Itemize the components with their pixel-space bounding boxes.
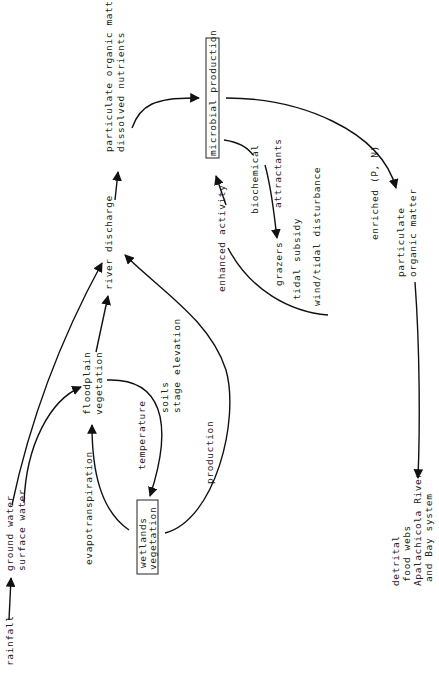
node-detrital-line3: Apalachicola River	[412, 472, 423, 586]
node-microbial-production: microbial production	[207, 30, 218, 156]
edge-label-soils: soils	[159, 381, 170, 413]
edge-label-tidal-subsidy: tidal subsidy	[291, 218, 302, 300]
edge-label-stage-elevation: stage elevation	[171, 318, 182, 413]
edge-label-biochemical: biochemical	[249, 144, 260, 214]
edge-pom-to-microbial	[132, 98, 199, 128]
edge-surfacewater-to-floodplain	[24, 387, 81, 503]
node-floodplain-line1: floodplain	[81, 352, 92, 415]
edge-river-to-pom	[115, 172, 118, 200]
node-particulate-line1: particulate	[395, 207, 406, 277]
node-detrital-line2: food webs	[401, 525, 412, 582]
edge-label-wind-tidal-disturbance: wind/tidal disturbance	[311, 167, 322, 306]
node-ground-water: ground water	[4, 495, 15, 571]
edge-floodplain-to-river	[96, 296, 108, 352]
edge-label-production: production	[204, 421, 215, 484]
edge-label-attractants: attractants	[272, 138, 283, 208]
ecosystem-flow-diagram: rainfall ground water surface water wetl…	[0, 0, 439, 680]
edge-rainfall-to-groundwater	[9, 578, 11, 620]
node-river-discharge: river discharge	[103, 195, 114, 290]
node-floodplain-line2: vegetation	[93, 352, 104, 415]
node-enriched: enriched (P, N)	[369, 145, 380, 240]
node-pom-line1: particulate organic matter	[103, 0, 114, 152]
edge-particulate-to-detrital	[415, 282, 419, 478]
edge-label-enhanced-activity: enhanced activity	[216, 185, 227, 292]
edge-wetlands-to-floodplain	[92, 425, 129, 530]
node-rainfall: rainfall	[4, 615, 15, 666]
node-surface-water: surface water	[16, 489, 27, 571]
node-detrital-line1: detrital	[390, 535, 401, 586]
edge-floodplain-to-wetlands	[107, 380, 162, 496]
edge-label-evapotranspiration: evapotranspiration	[83, 451, 94, 565]
node-pom-line2: dissolved nutrients	[115, 32, 126, 152]
edge-label-grazers: grazers	[273, 242, 284, 286]
node-wetlands-line2: vegetation	[147, 507, 158, 570]
edge-label-temperature: temperature	[136, 400, 147, 470]
node-particulate-line2: organic matter	[407, 189, 418, 277]
node-detrital-line4: and Bay system	[423, 494, 434, 582]
